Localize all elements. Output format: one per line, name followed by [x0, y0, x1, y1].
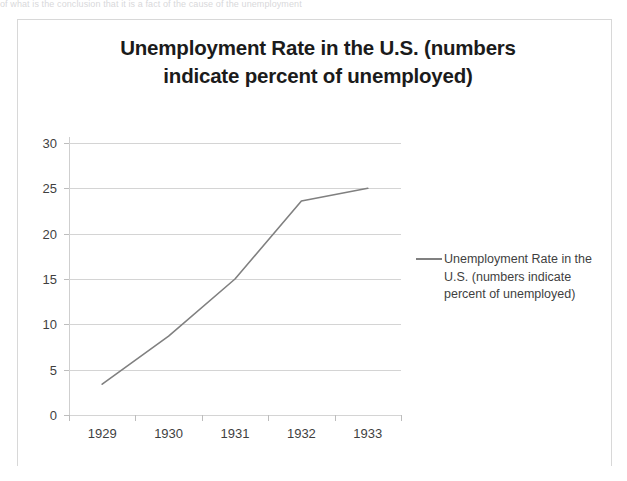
x-tick-3 [268, 415, 269, 421]
x-tick-1 [135, 415, 136, 421]
x-tick-2 [202, 415, 203, 421]
legend-label-line-3: percent of unemployed) [444, 287, 575, 301]
chart-title-line-1: Unemployment Rate in the U.S. (numbers [120, 36, 516, 59]
chart-legend: Unemployment Rate in the U.S. (numbers i… [416, 251, 606, 304]
x-axis-label-1933: 1933 [353, 426, 382, 441]
gridline-0 [69, 415, 401, 416]
y-axis-label-5: 5 [50, 362, 57, 377]
y-axis-label-15: 15 [43, 272, 57, 287]
legend-label-line-2: U.S. (numbers indicate [444, 270, 571, 284]
chart-title-line-2: indicate percent of unemployed) [163, 64, 472, 87]
y-axis-label-10: 10 [43, 317, 57, 332]
x-axis-label-1931: 1931 [221, 426, 250, 441]
series-line-chart [69, 143, 401, 415]
chart-title: Unemployment Rate in the U.S. (numbers i… [58, 34, 578, 90]
plot-area: 051015202530 19291930193119321933 [69, 143, 401, 415]
cropped-page-text-above: of what is the conclusion that it is a f… [0, 0, 627, 9]
y-axis-label-25: 25 [43, 181, 57, 196]
x-tick-0 [69, 415, 70, 421]
legend-label-line-1: Unemployment Rate in the [444, 252, 592, 266]
series-polyline-unemployment-rate [102, 188, 368, 384]
x-tick-5 [401, 415, 402, 421]
y-axis-label-20: 20 [43, 226, 57, 241]
x-axis-label-1932: 1932 [287, 426, 316, 441]
legend-label-unemployment-rate: Unemployment Rate in the U.S. (numbers i… [444, 251, 592, 304]
legend-line-swatch-icon [416, 258, 442, 260]
x-tick-4 [335, 415, 336, 421]
x-axis-label-1930: 1930 [154, 426, 183, 441]
y-axis-label-30: 30 [43, 136, 57, 151]
x-axis-label-1929: 1929 [88, 426, 117, 441]
y-axis-label-0: 0 [50, 408, 57, 423]
chart-container: Unemployment Rate in the U.S. (numbers i… [17, 19, 612, 466]
